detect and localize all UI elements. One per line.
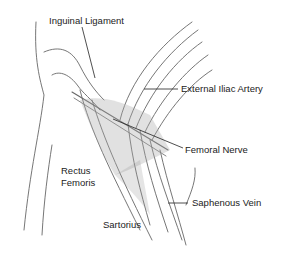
- label-rectus-femoris-line1: Rectus: [61, 165, 91, 176]
- label-rectus-femoris-line2: Femoris: [61, 177, 95, 188]
- label-saphenous-vein: Saphenous Vein: [192, 197, 261, 208]
- illustration-drawing: [0, 0, 285, 257]
- label-sartorius: Sartorius: [103, 219, 141, 230]
- label-inguinal-ligament: Inguinal Ligament: [49, 15, 124, 26]
- anatomy-figure: Inguinal Ligament External Iliac Artery …: [0, 0, 285, 257]
- label-external-iliac-artery: External Iliac Artery: [181, 83, 263, 94]
- label-femoral-nerve: Femoral Nerve: [185, 144, 248, 155]
